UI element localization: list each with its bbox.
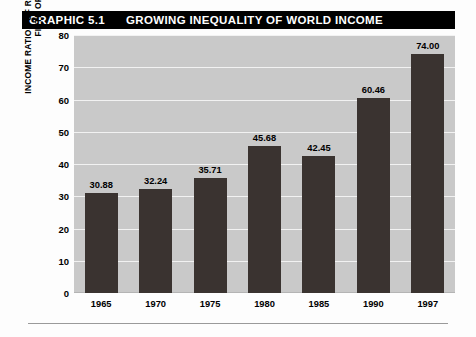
- bar-1990[interactable]: 60.46: [357, 98, 390, 293]
- gridline-70: [74, 67, 455, 68]
- plot-area: 01020304050607080 30.8832.2435.7145.6842…: [74, 35, 455, 293]
- y-tick-label-40: 40: [58, 159, 69, 170]
- bar-1985[interactable]: 42.45: [302, 156, 335, 293]
- x-tick-label-1997: 1997: [417, 299, 438, 309]
- y-tick-label-80: 80: [58, 30, 69, 41]
- x-tick-label-1975: 1975: [200, 299, 221, 309]
- gridline-60: [74, 100, 455, 101]
- x-tick-label-1990: 1990: [363, 299, 384, 309]
- bar-value-label-1970: 32.24: [144, 176, 167, 186]
- bar-1980[interactable]: 45.68: [248, 146, 281, 293]
- bar-value-label-1965: 30.88: [90, 180, 113, 190]
- bar-value-label-1980: 45.68: [253, 133, 276, 143]
- bar-value-label-1985: 42.45: [307, 143, 330, 153]
- x-tick-label-1980: 1980: [254, 299, 275, 309]
- chart-title-bar: GRAPHIC 5.1 GROWING INEQUALITY OF WORLD …: [22, 11, 455, 29]
- chart-area: INCOME RATIOS OF RICHEST FIFTH TO POORES…: [22, 29, 455, 311]
- y-tick-label-70: 70: [58, 62, 69, 73]
- bar-value-label-1997: 74.00: [416, 41, 439, 51]
- y-axis-title: INCOME RATIOS OF RICHEST FIFTH TO POORES…: [17, 0, 51, 91]
- x-tick-label-1985: 1985: [309, 299, 330, 309]
- y-tick-label-30: 30: [58, 191, 69, 202]
- y-axis-title-line-2: FIFTH OF POPULATION: [34, 0, 44, 37]
- bar-1965[interactable]: 30.88: [85, 193, 118, 293]
- bar-1970[interactable]: 32.24: [139, 189, 172, 293]
- bar-1975[interactable]: 35.71: [194, 178, 227, 293]
- chart-title-text: GROWING INEQUALITY OF WORLD INCOME: [119, 14, 383, 26]
- y-tick-label-20: 20: [58, 223, 69, 234]
- bar-value-label-1990: 60.46: [362, 85, 385, 95]
- x-tick-label-1965: 1965: [91, 299, 112, 309]
- bar-value-label-1975: 35.71: [198, 165, 221, 175]
- y-tick-label-60: 60: [58, 94, 69, 105]
- gridline-80: [74, 35, 455, 36]
- y-tick-label-0: 0: [64, 288, 69, 299]
- x-tick-label-1970: 1970: [145, 299, 166, 309]
- plot-inner: 01020304050607080 30.8832.2435.7145.6842…: [74, 35, 455, 293]
- footer-rule: [28, 323, 448, 324]
- figure-page: GRAPHIC 5.1 GROWING INEQUALITY OF WORLD …: [0, 0, 476, 337]
- y-tick-label-50: 50: [58, 126, 69, 137]
- bar-1997[interactable]: 74.00: [411, 54, 444, 293]
- y-tick-label-10: 10: [58, 255, 69, 266]
